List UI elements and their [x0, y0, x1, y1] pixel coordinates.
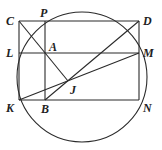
segment-BD — [45, 21, 139, 100]
label-A: A — [48, 40, 57, 54]
label-D: D — [142, 14, 152, 28]
circle — [17, 12, 147, 142]
label-B: B — [40, 102, 49, 116]
segment-CJ — [19, 21, 68, 81]
segment-KM — [19, 53, 139, 100]
label-C: C — [6, 14, 15, 28]
geometry-diagram: C P D L A M J K B N — [0, 0, 162, 150]
label-J: J — [69, 83, 77, 97]
label-M: M — [142, 46, 154, 60]
label-L: L — [5, 46, 13, 60]
label-P: P — [40, 6, 48, 20]
label-K: K — [5, 101, 15, 115]
label-N: N — [142, 101, 153, 115]
